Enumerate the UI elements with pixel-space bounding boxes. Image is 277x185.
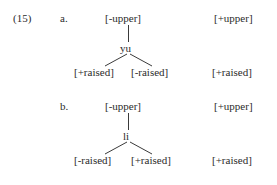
leaf-b-left: [-raised] [74,154,111,166]
leaf-b-right: [+raised] [131,154,171,166]
item-letter-b: b. [60,100,68,112]
terminal-word-b: li [123,130,129,142]
right-column-b-upper: [+upper] [214,100,253,112]
tree-item-b: b. [-upper] li [-raised] [+raised] [+upp… [0,0,277,185]
root-node-b-upper: [-upper] [105,100,141,112]
right-column-b-raised: [+raised] [212,154,252,166]
figure-canvas: (15) a. [-upper] yu [+raised] [-raised] … [0,0,277,185]
